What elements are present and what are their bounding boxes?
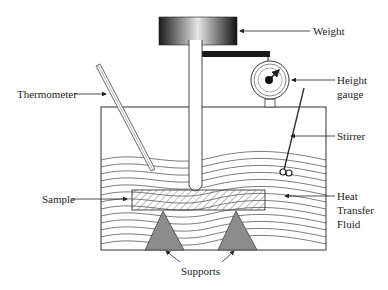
weight-label: Weight bbox=[313, 25, 345, 38]
fluid-label-line1: Heat bbox=[337, 190, 358, 203]
apparatus-diagram: Weight Height gauge Thermometer Stirrer … bbox=[0, 0, 388, 290]
height-gauge-icon bbox=[251, 61, 289, 107]
fluid-label-line3: Fluid bbox=[337, 218, 360, 231]
supports-arrow-left bbox=[166, 251, 180, 262]
height-gauge-label-line1: Height bbox=[337, 74, 367, 87]
sample-label: Sample bbox=[42, 193, 75, 206]
supports-label: Supports bbox=[181, 265, 220, 278]
height-gauge-label-line2: gauge bbox=[337, 88, 363, 101]
thermometer-icon bbox=[96, 64, 155, 171]
support-right bbox=[218, 211, 257, 250]
fluid-label-line2: Transfer bbox=[337, 204, 374, 217]
load-rod bbox=[189, 40, 202, 191]
sample-bar bbox=[132, 190, 265, 210]
thermometer-label: Thermometer bbox=[17, 88, 77, 101]
supports-arrow-right bbox=[222, 251, 234, 262]
stirrer-label: Stirrer bbox=[337, 130, 365, 143]
stirrer-icon bbox=[280, 88, 304, 176]
